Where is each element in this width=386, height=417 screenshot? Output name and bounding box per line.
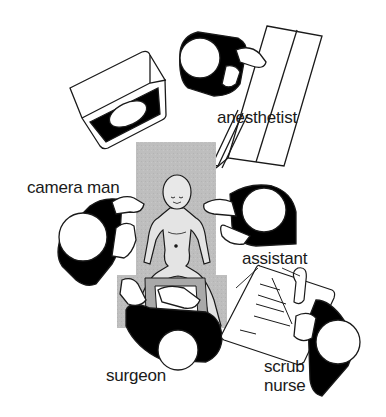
operating-room-diagram: anesthetist camera man assistant surgeon…	[0, 0, 386, 417]
label-surgeon: surgeon	[106, 367, 166, 385]
label-assistant: assistant	[242, 250, 307, 268]
monitor-icon	[70, 51, 166, 148]
label-camera-man: camera man	[27, 179, 119, 197]
assistant-figure	[204, 185, 296, 246]
label-scrub-line1: scrub	[264, 357, 306, 376]
label-anesthetist: anesthetist	[217, 109, 297, 127]
diagram-canvas	[0, 0, 386, 417]
label-scrub-nurse: scrub nurse	[264, 357, 306, 395]
label-scrub-line2: nurse	[264, 376, 306, 395]
camera-man-figure	[58, 197, 144, 286]
